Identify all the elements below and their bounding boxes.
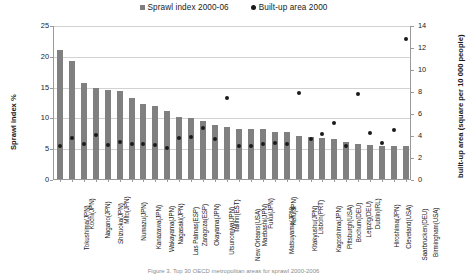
chart-legend: Sprawl index 2000-06 Built-up area 2000	[0, 3, 467, 12]
x-axis-tickmark	[275, 179, 276, 182]
x-axis-category-label: Leipzig(DEU)	[365, 201, 372, 237]
sprawl-index-chart: Sprawl index 2000-06 Built-up area 2000 …	[0, 0, 467, 279]
x-axis-category-label: Kofu(JPN)	[290, 197, 297, 225]
x-axis-tickmark	[239, 179, 240, 182]
chart-column	[114, 26, 126, 179]
chart-column	[209, 26, 221, 179]
chart-column	[400, 26, 412, 179]
x-axis-category-label: Kagoshima(JPN)	[335, 206, 342, 252]
x-axis-tickmark	[108, 179, 109, 182]
chart-column	[185, 26, 197, 179]
y-axis-right-tick-label: 12	[418, 44, 438, 51]
x-axis-tickmark	[143, 179, 144, 182]
x-axis-category-label: Dublin(IRL)	[375, 198, 382, 229]
x-axis-tickmark	[311, 179, 312, 182]
chart-column	[364, 26, 376, 179]
y-axis-right-tickmark	[411, 180, 414, 181]
data-point	[201, 126, 205, 130]
y-axis-right-tick-label: 4	[418, 132, 438, 139]
x-axis-category-label: New Orleans(USA)	[254, 209, 261, 261]
chart-column	[102, 26, 114, 179]
chart-column	[328, 26, 340, 179]
legend-label-built-up-area: Built-up area 2000	[259, 3, 328, 12]
y-axis-right-tick-label: 6	[418, 110, 438, 117]
x-axis-tickmark	[287, 179, 288, 182]
chart-column	[161, 26, 173, 179]
data-point	[285, 142, 289, 146]
x-axis-tickmark	[251, 179, 252, 182]
chart-column	[54, 26, 66, 179]
x-axis-category-label: Las Palmas(ESP)	[192, 207, 199, 255]
data-point	[82, 142, 86, 146]
y-axis-right-tick-label: 14	[418, 22, 438, 29]
bar	[69, 61, 75, 179]
data-point	[70, 136, 74, 140]
x-axis-tickmark	[120, 179, 121, 182]
y-axis-right-tick-label: 8	[418, 88, 438, 95]
figure-caption: Figure 3. Top 30 OECD metropolitan areas…	[0, 268, 467, 274]
y-axis-right-tick-label: 0	[418, 176, 438, 183]
x-axis-tickmark	[84, 179, 85, 182]
chart-column	[221, 26, 233, 179]
bar	[236, 129, 242, 180]
data-series-layer	[54, 26, 410, 179]
chart-column	[126, 26, 138, 179]
data-point	[177, 136, 181, 140]
data-point	[344, 144, 348, 148]
data-point	[58, 144, 62, 148]
x-axis-category-label: Nagano(JPN)	[103, 202, 110, 239]
y-axis-left-tick-label: 25	[25, 22, 49, 29]
data-point	[320, 132, 324, 136]
data-point	[106, 143, 110, 147]
chart-column	[149, 26, 161, 179]
x-axis-tickmark	[132, 179, 133, 182]
square-marker-icon	[140, 5, 145, 10]
bar	[224, 127, 230, 179]
data-point	[165, 146, 169, 150]
x-axis-category-label: Lisbon(PRT)	[317, 200, 324, 234]
chart-column	[293, 26, 305, 179]
y-axis-right-title: built-up area (square per 10 000 people)	[456, 35, 465, 178]
x-axis-category-label: Hiroshima(JPN)	[393, 205, 400, 248]
x-axis-category-labels: Tokushima(JPN)Kochi(JPN)Nagano(JPN)Shizu…	[53, 183, 411, 271]
x-axis-tickmark	[215, 179, 216, 182]
chart-column	[173, 26, 185, 179]
chart-column	[245, 26, 257, 179]
x-axis-category-label: Kanazawa(JPN)	[155, 205, 162, 249]
bar	[367, 145, 373, 179]
bar	[176, 117, 182, 179]
chart-column	[317, 26, 329, 179]
chart-column	[78, 26, 90, 179]
data-point	[392, 128, 396, 132]
bar	[260, 129, 266, 179]
x-axis-category-label: Pittsburgh(USA)	[346, 205, 353, 249]
chart-column	[90, 26, 102, 179]
x-axis-category-label: Nagasaki(JPN)	[177, 204, 184, 245]
x-axis-tickmark	[155, 179, 156, 182]
legend-item-built-up-area: Built-up area 2000	[251, 3, 328, 12]
data-point	[225, 96, 229, 100]
x-axis-tickmark	[370, 179, 371, 182]
x-axis-category-label: Zaragoza(ESP)	[201, 204, 208, 246]
y-axis-left-tick-label: 5	[25, 145, 49, 152]
x-axis-category-label: Kochi(JPN)	[88, 198, 95, 229]
chart-column	[281, 26, 293, 179]
y-axis-left-title: Sprawl index %	[9, 94, 18, 150]
x-axis-category-label: Mito(JPN)	[122, 197, 129, 224]
data-point	[94, 133, 98, 137]
data-point	[118, 140, 122, 144]
plot-area	[53, 26, 411, 180]
data-point	[297, 91, 301, 95]
bar	[272, 132, 278, 179]
circle-marker-icon	[251, 5, 256, 10]
x-axis-category-label: Numazu(JPN)	[140, 202, 147, 240]
chart-column	[66, 26, 78, 179]
bar	[379, 146, 385, 179]
bar	[331, 139, 337, 179]
x-axis-tickmark	[263, 179, 264, 182]
x-axis-category-label: Cleveland(USA)	[405, 205, 412, 249]
chart-column	[138, 26, 150, 179]
data-point	[249, 144, 253, 148]
data-point	[213, 137, 217, 141]
bar	[248, 129, 254, 179]
